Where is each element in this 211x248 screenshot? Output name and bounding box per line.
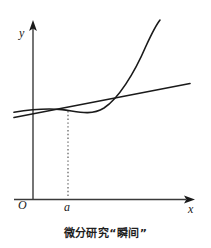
figure-caption: 微分研究“瞬间” (0, 224, 211, 240)
plot-svg (0, 0, 211, 218)
function-curve (14, 20, 160, 113)
math-figure: y x O a 微分研究“瞬间” (0, 0, 211, 248)
y-axis-label: y (19, 27, 24, 39)
x-axis (14, 196, 195, 204)
plot-area (0, 0, 211, 218)
x-axis-label: x (188, 203, 193, 215)
tick-label-a: a (64, 201, 70, 213)
tangent-line (14, 84, 190, 118)
origin-label: O (18, 199, 27, 211)
